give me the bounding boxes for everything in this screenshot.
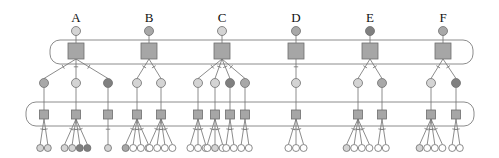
child-factor-square <box>211 110 220 119</box>
leaf-node <box>223 145 230 152</box>
edge-tick-mark <box>136 129 140 130</box>
root-factor-square <box>435 43 451 59</box>
leaf-node <box>154 145 161 152</box>
leaf-node <box>137 145 144 152</box>
child-factor-square <box>157 110 166 119</box>
child-factor-square <box>40 110 49 119</box>
edge <box>456 119 460 145</box>
edge-tick-mark <box>446 66 450 68</box>
leaf-node <box>245 145 252 152</box>
bottom-grouping-band <box>26 102 474 126</box>
edge-tick-mark <box>455 129 459 130</box>
edge-tick-mark <box>381 129 385 130</box>
leaf-node <box>69 145 76 152</box>
edge <box>288 119 296 145</box>
root-node <box>366 27 375 36</box>
leaf-node <box>424 145 431 152</box>
child-factor-square <box>427 110 436 119</box>
leaf-node <box>130 145 137 152</box>
edge <box>241 119 245 145</box>
edge <box>443 59 456 79</box>
edge-tick-mark <box>160 129 164 130</box>
top-grouping-band <box>50 40 473 64</box>
tree-label-b: B <box>145 10 154 25</box>
leaf-node <box>366 145 373 152</box>
root-factor-square <box>214 43 230 59</box>
edge-tick-mark <box>75 129 79 130</box>
leaf-node <box>300 145 307 152</box>
edge <box>44 119 48 145</box>
child-factor-square <box>72 110 81 119</box>
child-factor-square <box>226 110 235 119</box>
child-node <box>157 79 166 88</box>
root-factor-square <box>141 43 157 59</box>
leaf-node <box>187 145 194 152</box>
root-factor-square <box>68 43 84 59</box>
child-factor-square <box>104 110 113 119</box>
child-factor-square <box>241 110 250 119</box>
edge-tick-mark <box>363 66 367 68</box>
root-factor-square <box>288 43 304 59</box>
leaf-node <box>37 145 44 152</box>
root-node <box>72 27 81 36</box>
root-node <box>439 27 448 36</box>
leaf-node <box>358 145 365 152</box>
edge-tick-mark <box>62 65 64 69</box>
leaf-node <box>449 145 456 152</box>
edge-tick-mark <box>244 129 248 130</box>
leaf-node <box>146 145 153 152</box>
leaf-node <box>84 145 91 152</box>
edge <box>44 59 76 79</box>
edge <box>245 119 249 145</box>
edge <box>137 59 149 79</box>
child-node <box>211 79 220 88</box>
leaf-node <box>212 145 219 152</box>
root-node <box>145 27 154 36</box>
edge-tick-mark <box>142 66 146 68</box>
child-node <box>378 79 387 88</box>
tree-label-f: F <box>439 10 446 25</box>
child-node <box>241 79 250 88</box>
leaf-node <box>439 145 446 152</box>
leaf-node <box>375 145 382 152</box>
child-node <box>354 79 363 88</box>
edge <box>226 119 230 145</box>
root-node <box>218 27 227 36</box>
edge <box>358 59 370 79</box>
edge <box>40 119 44 145</box>
edge <box>215 119 223 145</box>
child-node <box>72 79 81 88</box>
edge-tick-mark <box>43 129 47 130</box>
leaf-node <box>169 145 176 152</box>
leaf-node <box>230 145 237 152</box>
leaf-node <box>382 145 389 152</box>
edge <box>222 59 245 79</box>
child-factor-square <box>194 110 203 119</box>
root-factor-square <box>362 43 378 59</box>
edge-tick-mark <box>357 129 361 130</box>
tree-label-e: E <box>366 10 374 25</box>
leaf-node <box>161 145 168 152</box>
leaf-node <box>44 145 51 152</box>
edge <box>190 119 198 145</box>
grouping-bands <box>26 40 474 126</box>
leaf-node <box>238 145 245 152</box>
child-node <box>226 79 235 88</box>
leaf-node <box>76 145 83 152</box>
root-node <box>292 27 301 36</box>
child-node <box>292 79 301 88</box>
tree-labels: ABCDEF <box>71 10 446 25</box>
leaf-node <box>293 145 300 152</box>
edge <box>296 119 304 145</box>
tree-diagram: ABCDEF <box>0 0 499 158</box>
child-factor-square <box>452 110 461 119</box>
leaf-node <box>105 145 112 152</box>
child-factor-square <box>354 110 363 119</box>
edge-tick-mark <box>436 66 440 68</box>
edge-tick-mark <box>229 129 233 130</box>
edges <box>40 35 460 145</box>
leaf-node <box>61 145 68 152</box>
edge <box>149 59 161 79</box>
edge <box>76 59 108 79</box>
leaf-node <box>416 145 423 152</box>
